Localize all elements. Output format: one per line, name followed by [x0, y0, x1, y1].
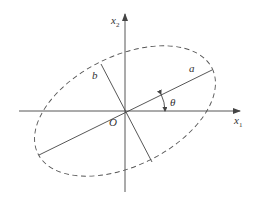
origin-label: O — [109, 116, 117, 128]
angle-theta-label: θ — [170, 96, 176, 108]
semi-minor-label: b — [92, 69, 98, 81]
x1-axis-label: x1 — [233, 114, 243, 129]
major-axis-segment — [39, 70, 212, 155]
minor-axis-segment — [101, 64, 152, 162]
semi-major-label: a — [189, 62, 195, 74]
angle-arc — [161, 94, 165, 111]
ellipse-diagram: x2 x1 O a b θ — [0, 0, 261, 203]
x2-axis-label: x2 — [110, 14, 120, 29]
